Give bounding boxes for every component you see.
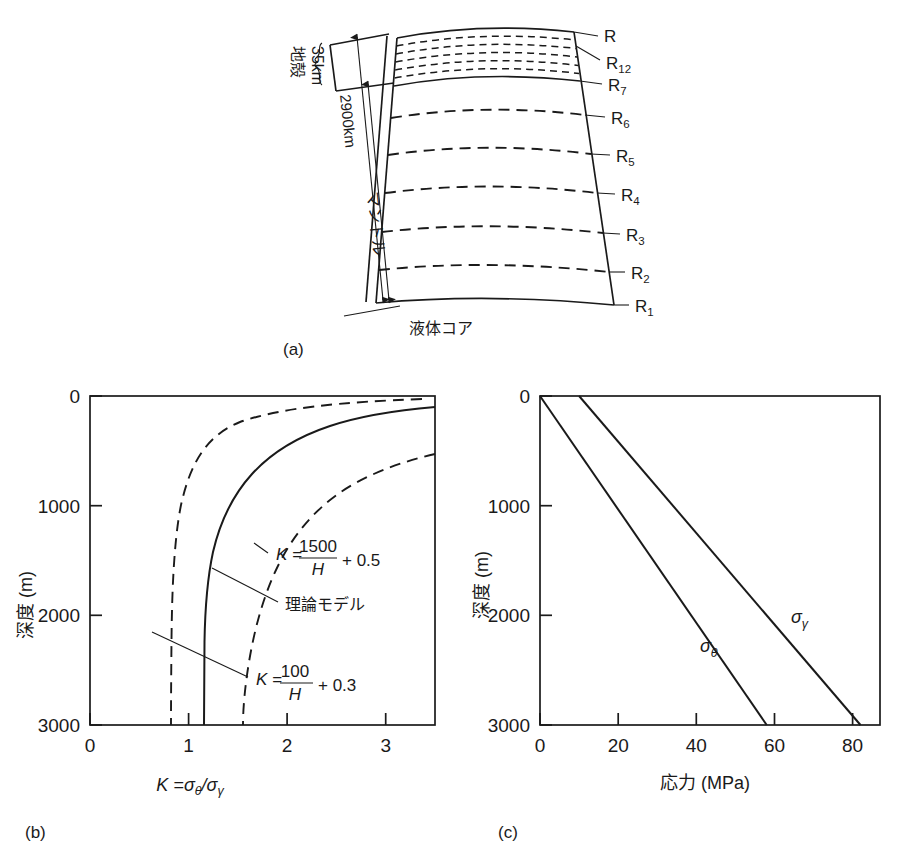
label-R7: R7 bbox=[608, 76, 627, 97]
depth-2900km-label: 2900km bbox=[337, 94, 359, 149]
label-R3: R3 bbox=[626, 226, 645, 247]
panel-b-xtick-0: 0 bbox=[85, 735, 96, 756]
panel-c-xtick-80: 80 bbox=[842, 735, 863, 756]
panel-c-x-axis-title: 応力 (MPa) bbox=[660, 773, 750, 793]
panel-c: 0 1000 2000 3000 0 20 40 60 80 σγ σθ 深度 … bbox=[460, 370, 914, 856]
panel-b: 0 1000 2000 3000 0 1 2 3 K = bbox=[0, 370, 470, 856]
panel-c-xtick-40: 40 bbox=[686, 735, 707, 756]
crust-top-line bbox=[330, 34, 389, 45]
panel-b-xtick-1: 1 bbox=[183, 735, 194, 756]
svg-text:+ 0.5: + 0.5 bbox=[342, 551, 380, 570]
panel-c-xtick-60: 60 bbox=[764, 735, 785, 756]
panel-b-label: (b) bbox=[25, 823, 46, 842]
label-R12: R12 bbox=[606, 54, 631, 75]
crust-left-edge bbox=[330, 45, 336, 91]
panel-c-ytick-0: 0 bbox=[519, 386, 530, 407]
panel-c-ytick-2000: 2000 bbox=[488, 605, 530, 626]
crust-label-line1: 地殻 bbox=[289, 46, 306, 78]
line-sigma-theta bbox=[540, 396, 767, 725]
panel-c-label: (c) bbox=[498, 823, 518, 842]
annotation-k-1500: K = 1500 H + 0.5 bbox=[276, 537, 380, 579]
panel-c-xtick-0: 0 bbox=[535, 735, 546, 756]
label-R4: R4 bbox=[621, 186, 640, 207]
label-sigma-theta: σθ bbox=[700, 636, 718, 660]
panel-c-y-axis-title: 深度 (m) bbox=[472, 551, 492, 619]
panel-b-x-axis-title: K =σθ/σγ bbox=[156, 775, 224, 798]
annotation-theoretical-model: 理論モデル bbox=[285, 595, 365, 613]
panel-c-x-ticks bbox=[540, 713, 853, 725]
panel-c-y-ticks bbox=[540, 396, 552, 725]
panel-c-ytick-3000: 3000 bbox=[488, 715, 530, 736]
panel-b-xtick-3: 3 bbox=[380, 735, 391, 756]
panel-c-xtick-20: 20 bbox=[608, 735, 629, 756]
panel-b-ytick-1000: 1000 bbox=[38, 496, 80, 517]
svg-text:H: H bbox=[289, 685, 302, 704]
panel-b-y-axis-title: 深度 (m) bbox=[16, 571, 36, 639]
panel-b-y-ticks bbox=[90, 396, 102, 725]
line-sigma-gamma bbox=[579, 396, 860, 725]
panel-a: 地殻 35km 2900km マントル 液体コア R R12 R7 bbox=[0, 0, 914, 370]
panel-b-ytick-0: 0 bbox=[69, 386, 80, 407]
arc-R2 bbox=[379, 265, 609, 272]
label-R6: R6 bbox=[611, 109, 630, 130]
liquid-core-label: 液体コア bbox=[409, 320, 473, 337]
panel-b-ytick-2000: 2000 bbox=[38, 605, 80, 626]
panel-b-ytick-3000: 3000 bbox=[38, 715, 80, 736]
core-top-line bbox=[344, 306, 400, 316]
label-R2: R2 bbox=[631, 264, 650, 285]
panel-b-x-ticks bbox=[90, 713, 386, 725]
annotation-k-100: K = 100 H + 0.3 bbox=[256, 662, 356, 704]
panel-c-axes bbox=[540, 396, 880, 725]
label-R5: R5 bbox=[616, 147, 635, 168]
arc-R1 bbox=[376, 298, 614, 305]
crustal-sublayer-arcs bbox=[395, 36, 579, 78]
panel-b-xtick-2: 2 bbox=[282, 735, 293, 756]
panel-a-label: (a) bbox=[283, 340, 304, 359]
svg-text:K =σθ/σγ: K =σθ/σγ bbox=[156, 775, 224, 798]
crust-label-line2: 35km bbox=[309, 46, 326, 85]
svg-text:K =: K = bbox=[256, 670, 282, 689]
label-sigma-gamma: σγ bbox=[791, 607, 809, 631]
arc-R7 bbox=[394, 77, 580, 86]
svg-text:1500: 1500 bbox=[299, 537, 337, 556]
crust-bottom-line bbox=[336, 83, 394, 91]
arc-R6 bbox=[391, 110, 585, 118]
panel-c-ytick-1000: 1000 bbox=[488, 496, 530, 517]
svg-text:H: H bbox=[312, 560, 325, 579]
svg-text:+ 0.3: + 0.3 bbox=[318, 676, 356, 695]
figure-root: 地殻 35km 2900km マントル 液体コア R R12 R7 bbox=[0, 0, 914, 856]
label-R: R bbox=[604, 27, 616, 46]
arc-R4 bbox=[385, 187, 597, 194]
arc-R5 bbox=[388, 148, 591, 155]
svg-text:100: 100 bbox=[281, 662, 309, 681]
label-R1: R1 bbox=[635, 297, 654, 318]
arc-R3 bbox=[382, 226, 603, 233]
